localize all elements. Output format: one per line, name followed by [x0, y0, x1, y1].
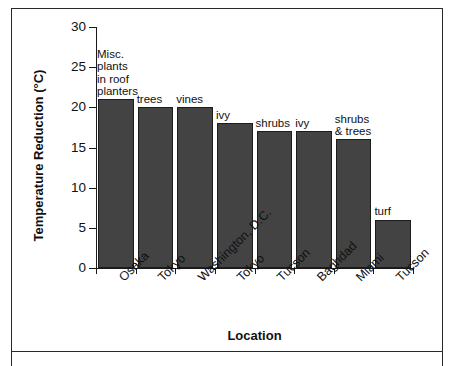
- bar-slot: shrubs & trees: [334, 27, 374, 268]
- bar[interactable]: [98, 99, 134, 268]
- y-axis-tick: [89, 148, 96, 149]
- bar-annotation: shrubs: [256, 117, 291, 129]
- y-axis-tick-label: 30: [71, 20, 86, 34]
- y-axis-tick: [89, 228, 96, 229]
- y-axis-tick-labels: 051015202530: [56, 0, 86, 366]
- bar[interactable]: [138, 107, 174, 268]
- bar-annotation: trees: [137, 93, 163, 105]
- y-axis-title: Temperature Reduction (°C): [31, 36, 46, 276]
- bar[interactable]: [177, 107, 213, 268]
- figure-frame-tail-left: [11, 351, 12, 366]
- y-axis-tick-label: 25: [71, 60, 86, 74]
- bar-annotation: turf: [374, 205, 391, 217]
- y-axis-tick: [89, 27, 96, 28]
- y-axis-tick: [89, 107, 96, 108]
- bar-slot: turf: [373, 27, 413, 268]
- figure-frame-tail-right: [442, 351, 443, 366]
- bar-annotation: ivy: [295, 117, 309, 129]
- figure-container: 051015202530 Temperature Reduction (°C) …: [0, 0, 461, 366]
- bar-annotation: vines: [176, 93, 203, 105]
- y-axis-tick: [89, 188, 96, 189]
- y-axis-tick-label: 5: [78, 221, 86, 235]
- bar-annotation: ivy: [216, 109, 230, 121]
- y-axis-tick-label: 0: [78, 261, 86, 275]
- y-axis-tick-label: 20: [71, 101, 86, 115]
- bar-slot: ivy: [294, 27, 334, 268]
- bar-slot: shrubs: [255, 27, 295, 268]
- y-axis-tick-label: 15: [71, 141, 86, 155]
- bar-slot: Misc. plants in roof planters: [96, 27, 136, 268]
- bar-slot: vines: [175, 27, 215, 268]
- y-axis-tick: [89, 67, 96, 68]
- y-axis-tick: [89, 268, 96, 269]
- x-axis-tick: [96, 268, 97, 274]
- bar-slot: trees: [136, 27, 176, 268]
- x-axis-title: Location: [96, 328, 413, 343]
- y-axis-tick-label: 10: [71, 181, 86, 195]
- bar[interactable]: [257, 131, 293, 268]
